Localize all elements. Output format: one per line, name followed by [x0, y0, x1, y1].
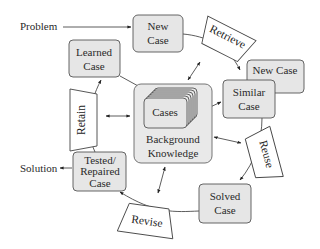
learned-case-line2: Case	[83, 60, 105, 72]
similar-case-line2: Case	[238, 100, 260, 112]
new-case-box: New Case	[133, 15, 183, 52]
new-case-line1: New	[148, 20, 169, 32]
tested-repaired-case-box: Tested/ Repaired Case	[73, 152, 126, 191]
problem-label: Problem	[20, 20, 58, 32]
background-line2: Knowledge	[148, 147, 199, 159]
retrieve-step: Retrieve	[196, 16, 256, 65]
revise-knowledge-arrow	[158, 167, 165, 193]
tested-line2: Repaired	[80, 165, 120, 177]
new-case-right-label: New Case	[253, 64, 298, 76]
solved-case-line2: Case	[214, 204, 236, 216]
cases-stack: Cases	[144, 88, 197, 128]
new-case-line2: Case	[147, 34, 169, 46]
tested-line3: Case	[89, 177, 111, 189]
retain-label: Retain	[75, 105, 87, 135]
background-knowledge-box: Cases Background Knowledge	[134, 84, 212, 163]
cases-label: Cases	[152, 106, 178, 118]
background-line1: Background	[146, 133, 200, 145]
solved-case-box: Solved Case	[199, 184, 251, 223]
similar-case-line1: Similar	[233, 86, 266, 98]
retrieve-knowledge-arrow	[188, 62, 200, 80]
learned-case-line1: Learned	[76, 46, 113, 58]
reuse-knowledge-arrow	[214, 137, 241, 143]
reuse-step: Reuse	[244, 126, 284, 183]
solution-label: Solution	[20, 162, 58, 174]
revise-step: Revise	[117, 202, 176, 239]
similar-case-box: Similar Case	[223, 80, 275, 118]
solved-case-line1: Solved	[210, 190, 241, 202]
retain-step: Retain	[70, 89, 97, 151]
cbr-cycle-diagram: Problem Solution New Case Retrieve New C…	[0, 0, 320, 249]
learned-case-box: Learned Case	[69, 40, 120, 77]
